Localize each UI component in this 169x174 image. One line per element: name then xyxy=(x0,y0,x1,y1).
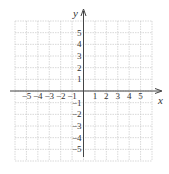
x-tick-label: −2 xyxy=(56,91,66,101)
x-axis-label: x xyxy=(157,94,163,106)
y-tick-label: 1 xyxy=(77,74,82,84)
y-tick-label: −3 xyxy=(72,121,82,131)
y-tick-label: −5 xyxy=(72,144,82,154)
y-tick-label: −4 xyxy=(72,133,82,143)
y-tick-label: 5 xyxy=(77,28,82,38)
x-tick-label: −4 xyxy=(33,91,43,101)
x-tick-label: 4 xyxy=(127,91,132,101)
axes xyxy=(10,9,162,157)
x-tick-label: −3 xyxy=(44,91,54,101)
x-tick-label: 1 xyxy=(93,91,98,101)
y-tick-label: 4 xyxy=(77,39,82,49)
x-tick-label: 2 xyxy=(104,91,109,101)
y-tick-label: 2 xyxy=(77,63,82,73)
y-tick-label: 3 xyxy=(77,51,82,61)
x-tick-label: 3 xyxy=(116,91,121,101)
y-axis-label: y xyxy=(72,7,78,19)
y-tick-label: −2 xyxy=(72,109,82,119)
x-tick-label: 5 xyxy=(138,91,143,101)
y-tick-label: −1 xyxy=(72,98,82,108)
coordinate-plane: −5−4−3−2−11234554321−1−2−3−4−5 x y xyxy=(0,0,169,174)
x-tick-label: −5 xyxy=(22,91,32,101)
plot-canvas: −5−4−3−2−11234554321−1−2−3−4−5 x y xyxy=(0,0,169,174)
